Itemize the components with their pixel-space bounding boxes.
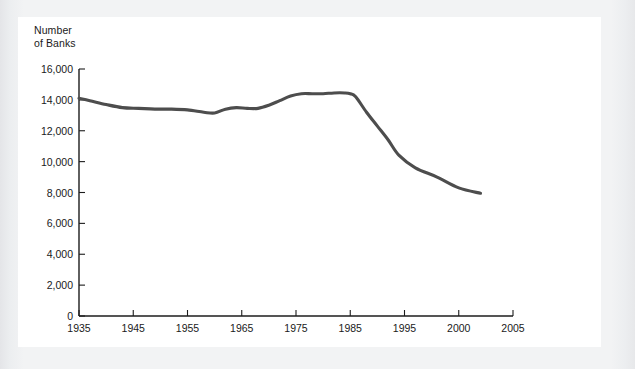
screenshot-root: Numberof Banks 02,0004,0006,0008,00010,0… xyxy=(0,0,635,369)
series-group xyxy=(79,93,480,193)
x-tick-label: 1935 xyxy=(67,322,91,334)
y-tick-label: 16,000 xyxy=(41,63,73,75)
x-tick-label: 2000 xyxy=(447,322,471,334)
y-tick-label: 12,000 xyxy=(41,125,73,137)
x-tick-label: 1985 xyxy=(339,322,363,334)
y-tick-label: 10,000 xyxy=(41,156,73,168)
x-tick-label: 1945 xyxy=(122,322,146,334)
y-tick-label: 8,000 xyxy=(47,187,73,199)
chart-panel: Numberof Banks 02,0004,0006,0008,00010,0… xyxy=(18,17,601,347)
y-tick-label: 2,000 xyxy=(47,279,73,291)
x-tick-label: 2005 xyxy=(501,322,525,334)
x-tick-label: 1975 xyxy=(284,322,308,334)
x-tick-label: 1955 xyxy=(176,322,200,334)
y-tick-label: 6,000 xyxy=(47,217,73,229)
y-tick-label: 0 xyxy=(67,310,73,322)
y-tick-label: 14,000 xyxy=(41,94,73,106)
chart-area: Numberof Banks 02,0004,0006,0008,00010,0… xyxy=(18,17,601,347)
data-series-line xyxy=(79,93,480,193)
line-chart-svg: 02,0004,0006,0008,00010,00012,00014,0001… xyxy=(18,17,601,347)
y-tick-label: 4,000 xyxy=(47,248,73,260)
x-tick-label: 1995 xyxy=(393,322,417,334)
x-tick-group: 193519451955196519751985199520002005 xyxy=(67,310,525,334)
x-tick-label: 1965 xyxy=(230,322,254,334)
